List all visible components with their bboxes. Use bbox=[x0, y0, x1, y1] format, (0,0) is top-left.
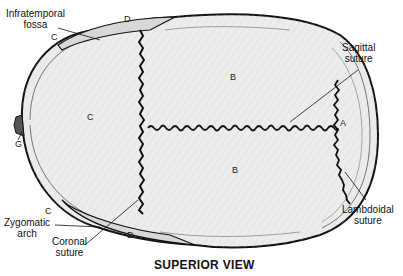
nasal-projection bbox=[14, 115, 24, 136]
letter-occipital: A bbox=[340, 118, 346, 128]
letter-frontal: C bbox=[87, 112, 94, 122]
figure-title: SUPERIOR VIEW bbox=[154, 258, 255, 272]
letter-zygomatic-top: C bbox=[51, 32, 58, 42]
label-zygomatic-arch: Zygomatic arch bbox=[4, 217, 50, 239]
label-coronal-suture: Coronal suture bbox=[52, 236, 87, 258]
letter-parietal-right: B bbox=[232, 165, 238, 175]
label-infratemporal-fossa: Infratemporal fossa bbox=[6, 8, 65, 30]
label-lambdoidal-suture: Lambdoidal suture bbox=[342, 204, 394, 226]
letter-zygomatic-bottom: C bbox=[45, 206, 52, 216]
letter-parietal-left: B bbox=[230, 72, 236, 82]
label-sagittal-suture: Sagittal suture bbox=[342, 42, 375, 64]
letter-nasal: G bbox=[15, 139, 22, 149]
letter-temporal-top: D bbox=[124, 14, 131, 24]
letter-temporal-bottom: D bbox=[127, 230, 134, 240]
skull-diagram: Infratemporal fossa Sagittal suture Lamb… bbox=[0, 0, 403, 276]
